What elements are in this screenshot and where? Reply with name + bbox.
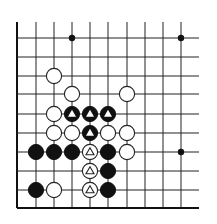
white-stone [46,182,61,197]
black-stone-icon [100,182,115,197]
white-stone-icon [100,125,115,140]
white-stone [46,106,61,121]
white-stone-icon [46,125,61,140]
black-stone [46,144,61,159]
white-stone-icon [64,86,79,101]
white-stone-icon [119,144,134,159]
white-stone [46,125,61,140]
star-point-icon [69,35,75,41]
white-stone-icon [64,125,79,140]
white-stone [119,125,134,140]
white-stone [46,68,61,83]
black-stone [100,144,115,159]
black-stone-marked [82,125,97,140]
black-stone-icon [28,182,43,197]
white-stone-icon [119,86,134,101]
black-stone [64,144,79,159]
black-stone-marked [100,106,115,121]
go-board [0,0,217,224]
white-stone-icon [82,163,97,178]
white-stone [64,125,79,140]
black-stone [100,182,115,197]
black-stone-icon [28,144,43,159]
white-stone-marked [82,182,97,197]
white-stone [100,125,115,140]
black-stone-icon [100,163,115,178]
white-stone-icon [46,106,61,121]
black-stone-marked [82,106,97,121]
white-stone-marked [82,144,97,159]
black-stone-icon [64,144,79,159]
black-stone [28,144,43,159]
black-stone [28,182,43,197]
white-stone [119,144,134,159]
white-stone-icon [46,68,61,83]
white-stone-icon [119,125,134,140]
white-stone-icon [82,144,97,159]
black-stone-marked [64,106,79,121]
black-stone [100,163,115,178]
star-point-icon [178,35,184,41]
star-point-icon [178,149,184,155]
white-stone-icon [82,182,97,197]
white-stone [64,86,79,101]
white-stone-marked [82,163,97,178]
black-stone-icon [100,144,115,159]
black-stone-icon [46,144,61,159]
white-stone-icon [46,182,61,197]
white-stone [119,86,134,101]
